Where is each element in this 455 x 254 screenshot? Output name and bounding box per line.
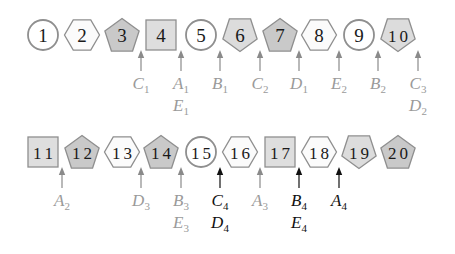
pointer-label-subscript: 1 [144,83,150,95]
pointer-label-subscript: 3 [262,200,268,212]
arrow-up-icon [217,167,223,175]
pointer-label-subscript: 2 [341,83,347,95]
node-pentagon-down: 6 [223,19,257,52]
pointer-label-letter: A [54,191,64,210]
pointer-label-subscript: 3 [183,222,189,234]
pointer-label: E1 [173,97,189,120]
pointer-label-letter: D [290,74,302,93]
arrow-up-icon [336,50,342,58]
node-number: 8 [314,25,324,46]
pentagon-up-shape [381,136,415,169]
arrow-up-icon [178,50,184,58]
node-hexagon: 18 [302,137,337,167]
arrow-up-icon [296,167,302,175]
node-number: 3 [117,25,127,46]
node-square: 4 [146,20,176,50]
pointer-label-letter: A [331,191,341,210]
pointer-label: C3 [410,75,427,98]
pointer-label-letter: D [132,191,144,210]
arrow-up-icon [257,167,263,175]
pointer-label-subscript: 2 [421,105,427,117]
node-pentagon-up: 14 [144,136,178,169]
pointer-label: A2 [54,192,70,215]
node-hexagon: 8 [302,20,337,50]
node-number: 2 [77,25,87,46]
pointer-label-letter: E [331,74,341,93]
node-number: 6 [235,25,245,46]
node-pentagon-up: 7 [263,19,297,52]
pentagon-up-shape [65,136,99,169]
node-pentagon-down: 19 [342,136,376,169]
node-circle: 5 [186,20,216,50]
pointer-label-letter: E [173,213,183,232]
pointer-label-subscript: 3 [183,200,189,212]
node-circle: 1 [28,20,58,50]
pointer-label-subscript: 3 [421,83,427,95]
pointer-label: E4 [291,214,307,237]
node-number: 5 [196,25,206,46]
pointer-label-subscript: 1 [183,105,189,117]
pointer-label-letter: B [212,74,222,93]
pointer-label: D3 [132,192,150,215]
pointer-label-letter: B [173,191,183,210]
pointer-label-subscript: 1 [222,83,228,95]
pointer-label: E2 [331,75,347,98]
pointer-label-subscript: 3 [144,200,150,212]
hexagon-shape [302,137,337,167]
arrow-up-icon [138,50,144,58]
arrow-up-icon [336,167,342,175]
hexagon-shape [105,137,140,167]
pointer-label: D1 [290,75,308,98]
pointer-label-letter: C [133,74,144,93]
pointer-label-letter: D [409,96,421,115]
pointer-label: A4 [331,192,347,215]
pointer-label-letter: C [212,191,223,210]
pointer-label: C1 [133,75,150,98]
pointer-label: B2 [370,75,386,98]
pointer-label-letter: D [211,213,223,232]
pointer-label-subscript: 1 [302,83,308,95]
pointer-label: B3 [173,192,189,215]
pointer-label-subscript: 4 [301,222,307,234]
arrow-up-icon [178,167,184,175]
node-number: 1 [38,25,48,46]
pointer-label: B1 [212,75,228,98]
arrow-up-icon [217,50,223,58]
pointer-label: C4 [212,192,229,215]
pointer-label: B4 [291,192,307,215]
node-pentagon-up: 3 [105,19,139,52]
node-number: 4 [156,25,166,46]
pointer-label: D4 [211,214,229,237]
pointer-label-subscript: 4 [223,222,229,234]
node-pentagon-up: 20 [381,136,415,169]
pointer-label-subscript: 2 [380,83,386,95]
node-circle: 9 [344,20,374,50]
pointer-label-subscript: 4 [341,200,347,212]
pointer-label-letter: A [252,191,262,210]
arrow-up-icon [257,50,263,58]
arrow-up-icon [138,167,144,175]
pointer-label-letter: C [410,74,421,93]
node-hexagon: 13 [105,137,140,167]
pointer-label: A1 [173,75,189,98]
arrow-up-icon [375,50,381,58]
node-pentagon-up: 12 [65,136,99,169]
arrow-up-icon [296,50,302,58]
pointer-label-letter: B [291,191,301,210]
arrow-up-icon [415,50,421,58]
pointer-label: A3 [252,192,268,215]
pointer-label-subscript: 1 [183,83,189,95]
pointer-label-subscript: 2 [263,83,269,95]
pointer-label-letter: E [291,213,301,232]
pentagon-down-shape [342,136,376,169]
node-hexagon: 2 [65,20,100,50]
sequence-diagram: 1234567891011121314151617181920 C1A1E1B1… [0,0,455,254]
node-number: 9 [354,25,364,46]
node-number: 7 [275,25,285,46]
node-hexagon: 16 [223,137,258,167]
pointer-label-letter: B [370,74,380,93]
pointer-label-letter: E [173,96,183,115]
pentagon-down-shape [381,19,415,52]
arrow-up-icon [59,167,65,175]
node-circle: 15 [186,137,216,167]
